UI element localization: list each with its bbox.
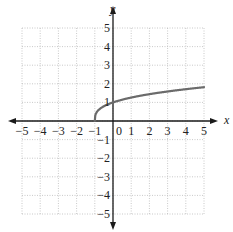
x-axis-title: x [223,113,230,127]
x-tick-label: −5 [16,124,29,138]
y-tick-label: 4 [104,40,110,54]
y-tick-label: 1 [104,95,110,109]
x-tick-label: 4 [183,124,189,138]
y-tick-label: 5 [104,21,110,35]
y-tick-label: 3 [104,58,110,72]
x-tick-label: 1 [128,124,134,138]
y-tick-label: −4 [97,188,110,202]
y-axis-title: y [109,2,116,16]
y-axis-arrow-down-icon [110,222,116,230]
chart-canvas: −5−4−3−2−1012345 −5−4−3−2−112345 x y [0,0,233,232]
y-tick-label: −5 [97,207,110,221]
x-tick-label: 0 [116,124,122,138]
x-tick-label: 3 [165,124,171,138]
y-tick-label: −3 [97,170,110,184]
x-axis-arrow-right-icon [210,118,218,124]
x-tick-label: 2 [146,124,152,138]
y-tick-label: −1 [97,133,110,147]
x-tick-labels: −5−4−3−2−1012345 [16,124,207,138]
axes [8,6,218,230]
y-tick-label: 2 [104,77,110,91]
y-tick-label: −2 [97,151,110,165]
x-tick-label: −3 [52,124,65,138]
x-tick-label: −2 [70,124,83,138]
x-tick-label: −4 [34,124,47,138]
x-tick-label: 5 [201,124,207,138]
